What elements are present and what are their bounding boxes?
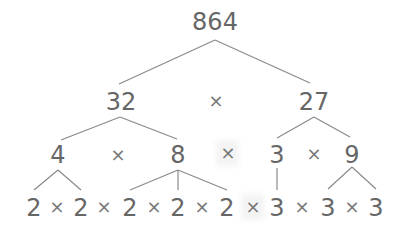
times-operator: × bbox=[110, 146, 125, 164]
tree-node-l2: 2 bbox=[73, 196, 88, 220]
tree-node-l8: 3 bbox=[368, 196, 383, 220]
tree-node-n4: 4 bbox=[50, 143, 65, 167]
tree-edge bbox=[328, 167, 352, 189]
times-operator: × bbox=[146, 198, 161, 216]
tree-node-n864: 864 bbox=[192, 10, 238, 34]
tree-edge bbox=[215, 40, 310, 83]
tree-node-n3a: 3 bbox=[269, 143, 284, 167]
tree-node-l6: 3 bbox=[269, 196, 284, 220]
tree-edge bbox=[277, 117, 314, 138]
tree-node-l4: 2 bbox=[170, 196, 185, 220]
times-operator: × bbox=[194, 198, 209, 216]
tree-edge bbox=[352, 167, 376, 189]
tree-node-l3: 2 bbox=[122, 196, 137, 220]
times-operator: × bbox=[306, 145, 321, 163]
times-operator: × bbox=[208, 92, 223, 110]
times-operator: × bbox=[294, 198, 309, 216]
tree-edge bbox=[120, 117, 177, 139]
tree-edge bbox=[61, 117, 120, 140]
tree-node-l7: 3 bbox=[320, 196, 335, 220]
times-operator: × bbox=[220, 144, 235, 162]
tree-node-l5: 2 bbox=[219, 196, 234, 220]
tree-edge bbox=[130, 170, 178, 190]
times-operator: × bbox=[245, 198, 260, 216]
times-operator: × bbox=[344, 198, 359, 216]
tree-edge bbox=[58, 170, 81, 190]
tree-node-n9: 9 bbox=[344, 143, 359, 167]
tree-edge bbox=[314, 117, 350, 137]
tree-edge bbox=[178, 170, 227, 190]
times-operator: × bbox=[96, 198, 111, 216]
tree-edge bbox=[34, 170, 58, 190]
times-operator: × bbox=[49, 198, 64, 216]
tree-node-n27: 27 bbox=[299, 90, 330, 114]
tree-node-n8: 8 bbox=[170, 143, 185, 167]
tree-node-n32: 32 bbox=[106, 90, 137, 114]
tree-edge bbox=[119, 40, 215, 84]
tree-node-l1: 2 bbox=[26, 196, 41, 220]
